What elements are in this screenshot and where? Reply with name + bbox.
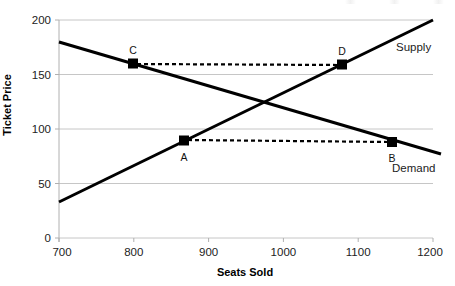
axes: [55, 20, 433, 242]
y-tick-labels: 200 150 100 50 0: [32, 14, 51, 244]
x-tick-label-700: 700: [52, 246, 71, 258]
y-tick-label-0: 0: [45, 232, 51, 244]
marker-point-a: [179, 136, 189, 146]
series-label-supply: Supply: [396, 41, 431, 53]
point-label-c: C: [129, 44, 137, 56]
connector-a-to-b: [188, 140, 390, 142]
point-label-a: A: [180, 151, 187, 163]
y-tick-label-200: 200: [32, 14, 51, 26]
x-tick-label-1200: 1200: [417, 246, 443, 258]
gridlines: [59, 20, 433, 238]
y-tick-label-100: 100: [32, 123, 51, 135]
marker-point-d: [337, 60, 347, 70]
x-tick-label-800: 800: [124, 246, 143, 258]
y-axis-title: Ticket Price: [1, 74, 13, 136]
y-tick-label-150: 150: [32, 69, 51, 81]
demand-line: [59, 42, 441, 154]
x-tick-label-900: 900: [199, 246, 218, 258]
supply-line: [59, 20, 433, 202]
x-tick-label-1000: 1000: [271, 246, 297, 258]
point-label-d: D: [338, 45, 346, 57]
x-tick-labels: 700 800 900 1000 1100 1200: [52, 246, 442, 258]
x-axis-title: Seats Sold: [217, 266, 273, 278]
marker-point-b: [387, 137, 397, 147]
marker-point-c: [128, 59, 138, 69]
x-tick-label-1100: 1100: [346, 246, 371, 258]
y-tick-label-50: 50: [38, 178, 51, 190]
connector-c-to-d: [137, 64, 340, 65]
supply-demand-chart: 200 150 100 50 0 700 800 900 1000 1100 1…: [0, 0, 455, 286]
series-label-demand: Demand: [392, 162, 435, 174]
chart-canvas: 200 150 100 50 0 700 800 900 1000 1100 1…: [0, 0, 455, 286]
